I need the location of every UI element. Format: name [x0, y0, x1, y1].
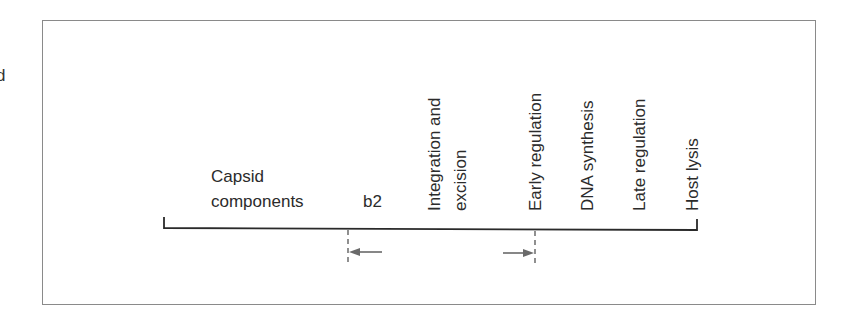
label-dna-synthesis: DNA synthesis	[580, 100, 596, 211]
arrow-left-icon	[349, 248, 382, 256]
label-integration-line1: Integration and	[427, 98, 443, 211]
label-capsid-line1: Capsid	[211, 167, 264, 187]
label-b2: b2	[363, 192, 382, 212]
genome-line	[164, 217, 697, 230]
label-capsid-line2: components	[211, 192, 304, 212]
label-integration-line2: excision	[453, 150, 469, 211]
label-late-regulation: Late regulation	[632, 99, 648, 211]
label-host-lysis: Host lysis	[685, 138, 701, 211]
label-early-regulation: Early regulation	[528, 93, 544, 211]
arrow-right-icon	[503, 249, 534, 257]
